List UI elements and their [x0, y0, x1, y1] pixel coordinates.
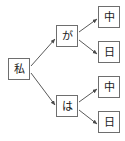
tree-node-label: 日	[104, 47, 115, 58]
tree-edge-root-to-ha	[31, 73, 55, 105]
tree-node-leaf-1[interactable]: 中	[98, 6, 120, 28]
tree-node-ga[interactable]: が	[56, 25, 78, 47]
tree-edge-ga-to-leaf2	[79, 40, 97, 54]
tree-node-label: 日	[104, 117, 115, 128]
tree-node-leaf-3[interactable]: 中	[98, 76, 120, 98]
tree-edge-ha-to-leaf3	[79, 89, 97, 102]
tree-edge-root-to-ga	[31, 39, 55, 66]
tree-node-leaf-2[interactable]: 日	[98, 41, 120, 63]
tree-node-label: 中	[104, 12, 115, 23]
tree-diagram: 私 が は 中 日 中 日	[0, 0, 125, 141]
tree-node-ha[interactable]: は	[56, 95, 78, 117]
tree-edge-ga-to-leaf1	[79, 19, 97, 32]
tree-node-label: 中	[104, 82, 115, 93]
tree-node-leaf-4[interactable]: 日	[98, 111, 120, 133]
tree-node-label: が	[62, 31, 73, 42]
tree-node-label: は	[62, 101, 73, 112]
tree-node-root[interactable]: 私	[8, 58, 30, 80]
tree-node-label: 私	[14, 64, 25, 75]
tree-edge-ha-to-leaf4	[79, 110, 97, 124]
